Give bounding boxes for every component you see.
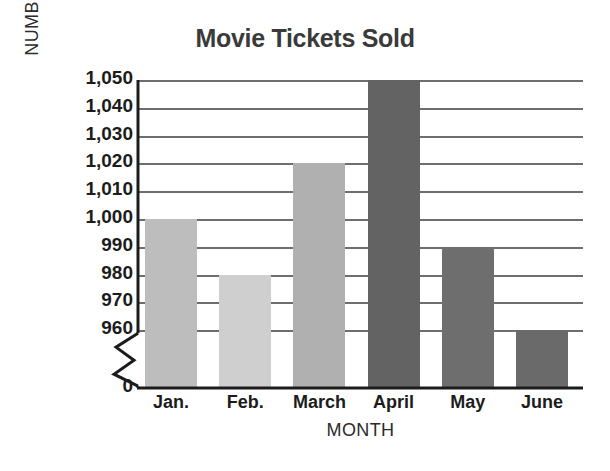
y-axis-tick-label: 1,040 (48, 95, 133, 117)
bar (442, 247, 494, 388)
x-axis-tick-label: April (356, 392, 432, 413)
bar (516, 330, 568, 388)
bar (219, 275, 271, 388)
x-axis-tick-labels: Jan.Feb.MarchAprilMayJune (138, 392, 583, 422)
y-axis-tick-label: 1,050 (48, 67, 133, 89)
bar-series (138, 80, 583, 388)
plot-area (138, 80, 583, 388)
bar-chart: Movie Tickets Sold NUMBER OF TICKETS 1,0… (0, 0, 610, 471)
y-axis-tick-label: 1,010 (48, 178, 133, 200)
y-axis-tick-label: 980 (48, 262, 133, 284)
y-axis-tick-label: 960 (48, 317, 133, 339)
y-axis-tick-label: 1,000 (48, 206, 133, 228)
x-axis-tick-label: May (430, 392, 506, 413)
bar (145, 219, 197, 388)
x-axis-tick-label: March (281, 392, 357, 413)
y-axis-tick-label: 1,030 (48, 123, 133, 145)
x-axis-tick-label: June (504, 392, 580, 413)
y-axis-tick-label: 0 (48, 375, 133, 397)
y-axis-tick-label: 970 (48, 289, 133, 311)
x-axis-title: MONTH (138, 420, 583, 441)
bar (293, 163, 345, 388)
x-axis-tick-label: Feb. (207, 392, 283, 413)
y-axis-tick-label: 990 (48, 234, 133, 256)
y-axis-title: NUMBER OF TICKETS (18, 0, 46, 108)
y-axis-tick-labels: 1,0501,0401,0301,0201,0101,0009909809709… (45, 0, 133, 471)
y-axis-tick-label: 1,020 (48, 150, 133, 172)
x-axis-tick-label: Jan. (133, 392, 209, 413)
bar (368, 80, 420, 388)
